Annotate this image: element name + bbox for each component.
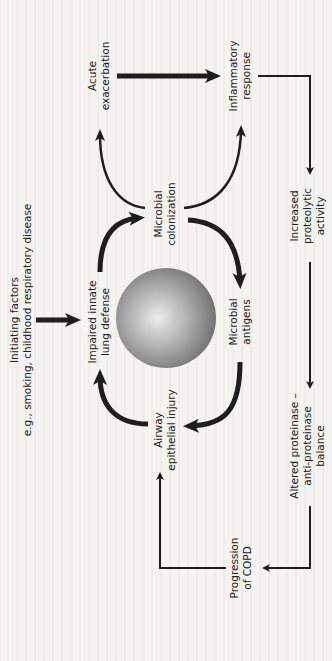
acute-line1: Acute (86, 61, 98, 91)
lung-sphere (116, 268, 216, 368)
arrow-inflammatory-to-proteolytic (258, 76, 310, 172)
arrow-balance-to-progression (265, 506, 310, 568)
balance-line2: anti-proteinase (301, 406, 313, 486)
arrow-colonization-to-antigens (188, 220, 240, 282)
initiating-line1: Initiating factors (8, 277, 20, 363)
colonization-line1: Microbial (152, 190, 164, 237)
arrow-progression-to-airway (160, 475, 226, 568)
arrow-impaired-to-colonization (100, 218, 138, 272)
progression-line1: Progression (228, 538, 240, 599)
node-microbial-colonization: Microbial colonization (152, 182, 177, 245)
node-altered-proteinase-balance: Altered proteinase – anti-proteinase bal… (288, 393, 326, 499)
balance-line1: Altered proteinase – (288, 393, 300, 499)
inflammatory-line2: response (240, 52, 252, 100)
acute-line2: exacerbation (99, 42, 111, 111)
node-initiating-factors: Initiating factors e.g., smoking, childh… (8, 204, 33, 437)
progression-line2: of COPD (241, 546, 253, 589)
proteolytic-line2: proteolytic (301, 188, 313, 244)
proteolytic-line1: Increased (288, 190, 300, 241)
node-progression-of-copd: Progression of COPD (228, 538, 253, 599)
node-microbial-antigens: Microbial antigens (227, 298, 252, 345)
airway-line2: epithelial injury (165, 389, 177, 470)
node-acute-exacerbation: Acute exacerbation (86, 42, 111, 111)
arrow-antigens-to-airway (190, 362, 240, 426)
antigens-line2: antigens (240, 299, 252, 344)
balance-line3: balance (314, 425, 326, 466)
inflammatory-line1: Inflammatory (227, 41, 239, 112)
airway-line1: Airway (152, 412, 164, 448)
node-airway-epithelial-injury: Airway epithelial injury (152, 389, 177, 470)
antigens-line1: Microbial (227, 298, 239, 345)
node-increased-proteolytic-activity: Increased proteolytic activity (288, 188, 326, 244)
arrow-airway-to-impaired (100, 376, 148, 424)
arrow-colonization-to-inflammatory (184, 130, 241, 208)
copd-vicious-circle-diagram: Initiating factors e.g., smoking, childh… (0, 0, 332, 661)
arrow-colonization-to-acute (100, 134, 145, 208)
impaired-line1: Impaired innate (86, 280, 98, 363)
node-inflammatory-response: Inflammatory response (227, 41, 252, 112)
colonization-line2: colonization (165, 182, 177, 245)
node-impaired-lung-defense: Impaired innate lung defense (86, 280, 111, 363)
initiating-line2: e.g., smoking, childhood respiratory dis… (21, 204, 33, 437)
impaired-line2: lung defense (99, 288, 111, 356)
proteolytic-line3: activity (314, 197, 326, 236)
